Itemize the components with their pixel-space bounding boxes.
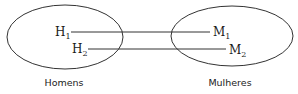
- set-label-homens: Homens: [44, 77, 83, 88]
- element-h2: H2: [72, 42, 88, 58]
- set-mulheres-ellipse: [171, 6, 293, 66]
- set-label-mulheres: Mulheres: [208, 77, 251, 88]
- relation-diagram: H1 H2 M1 M2 Homens Mulheres: [0, 0, 298, 94]
- element-h1: H1: [55, 25, 71, 41]
- element-m1: M1: [213, 25, 230, 41]
- element-m2: M2: [229, 43, 246, 59]
